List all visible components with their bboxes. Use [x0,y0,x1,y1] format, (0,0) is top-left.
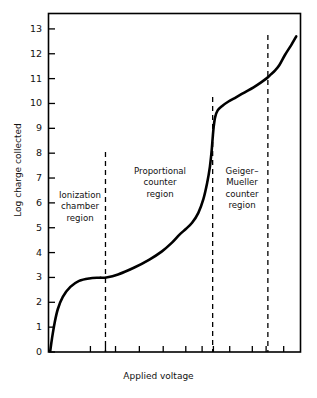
y-tick-label: 4 [22,248,42,258]
x-axis-title: Applied voltage [0,371,317,381]
y-tick-label: 13 [22,24,42,34]
region-label-geiger-mueller-counter: Geiger– Mueller counter region [216,166,268,212]
y-tick-label: 1 [22,322,42,332]
region-label-ionization-chamber: Ionization chamber region [54,190,106,224]
y-tick-label: 2 [22,297,42,307]
region-label-proportional-counter: Proportional counter region [113,166,207,200]
y-tick-label: 7 [22,173,42,183]
y-tick-label: 3 [22,272,42,282]
chart-figure: Log charge collected Applied voltage 012… [0,0,317,398]
y-tick-label: 10 [22,98,42,108]
y-tick-label: 12 [22,49,42,59]
y-tick-label: 11 [22,74,42,84]
y-tick-label: 8 [22,148,42,158]
y-tick-label: 9 [22,123,42,133]
y-tick-label: 0 [22,347,42,357]
y-tick-label: 5 [22,223,42,233]
y-tick-label: 6 [22,198,42,208]
